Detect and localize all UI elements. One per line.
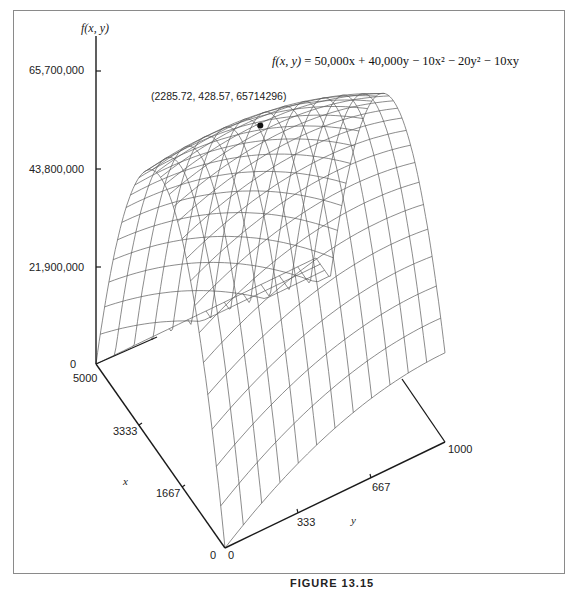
x-axis <box>96 364 225 548</box>
x-tick-label-5000: 5000 <box>73 372 97 384</box>
mesh-line-const-x <box>113 236 333 259</box>
equation: f(x, y) = 50,000x + 40,000y − 10x² − 20y… <box>272 54 519 69</box>
figure-caption: FIGURE 13.15 <box>290 577 374 589</box>
x-tick-1667 <box>182 485 185 487</box>
mesh-line-const-y <box>316 93 445 353</box>
y-tick-333 <box>297 509 298 513</box>
mesh-line-const-x <box>105 270 325 307</box>
mesh-line-const-x <box>225 353 445 548</box>
equation-lhs: f(x, y) <box>272 54 301 68</box>
mesh-line-const-x <box>135 139 355 185</box>
back-edge <box>402 379 445 442</box>
y-axis <box>225 442 445 548</box>
mesh-line-const-y <box>169 127 298 463</box>
z-tick-label-65700000: 65,700,000 <box>29 64 84 76</box>
y-axis-title: y <box>351 514 356 526</box>
z-tick-label-21900000: 21,900,000 <box>29 261 84 273</box>
y-tick-label-1000: 1000 <box>448 443 472 455</box>
left-back-edge <box>96 337 157 364</box>
mesh-line-const-y <box>114 157 243 525</box>
mesh-line-const-x <box>161 94 381 178</box>
z-tick-label-43800000: 43,800,000 <box>29 163 84 175</box>
mesh-line-const-x <box>118 213 338 240</box>
mesh-line-const-y <box>243 101 372 398</box>
mesh-line-const-x <box>100 264 320 334</box>
z-axis-title: f(x, y) <box>81 21 109 36</box>
z-tick-label-0: 0 <box>70 358 76 370</box>
x-tick-label-3333: 3333 <box>113 425 137 437</box>
mesh-line-const-x <box>204 205 424 363</box>
surface-mesh <box>96 93 445 548</box>
equation-rhs: = 50,000x + 40,000y − 10x² − 20y² − 10xy <box>301 54 519 68</box>
mesh-line-const-x <box>208 229 428 394</box>
x-tick-label-0: 0 <box>210 549 216 561</box>
x-tick-label-1667: 1667 <box>156 487 180 499</box>
mesh-line-const-x <box>156 96 376 173</box>
x-axis-title: x <box>123 475 128 487</box>
y-tick-label-333: 333 <box>297 516 315 528</box>
y-tick-label-667: 667 <box>372 481 390 493</box>
mesh-line-const-x <box>139 126 359 178</box>
mesh-line-const-x <box>221 318 441 506</box>
maximum-point-marker <box>257 122 263 128</box>
mesh-line-const-y <box>133 146 262 503</box>
x-tick-3333 <box>139 423 142 425</box>
mesh-line-const-x <box>195 163 415 306</box>
y-tick-label-0: 0 <box>228 549 234 561</box>
mesh-line-const-x <box>169 96 389 195</box>
maximum-point-label: (2285.72, 428.57, 65714296) <box>151 90 286 102</box>
mesh-line-const-x <box>199 182 419 333</box>
mesh-line-const-x <box>212 256 432 429</box>
